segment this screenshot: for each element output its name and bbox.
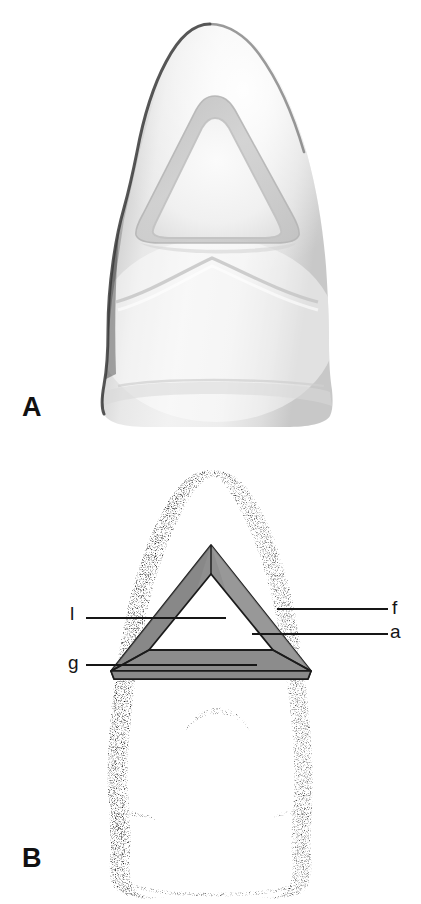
panel-a: A: [0, 0, 421, 452]
tooth-outline-render-b: [107, 468, 316, 901]
label-gingival-wall: g: [68, 653, 79, 672]
leader-line-f: [277, 608, 388, 610]
panel-b-illustration: [0, 452, 421, 904]
leader-line-g: [86, 664, 257, 666]
label-facial-wall: f: [392, 598, 397, 617]
figure-root: A: [0, 0, 421, 904]
cavity-gingival-bevel: [111, 671, 311, 679]
label-lingual-wall: l: [70, 604, 74, 623]
label-axial-floor: a: [390, 622, 401, 641]
panel-b-letter: B: [22, 845, 42, 872]
panel-a-letter: A: [22, 394, 42, 421]
panel-b: [0, 452, 421, 904]
leader-line-l: [86, 617, 226, 619]
leader-line-a: [252, 633, 388, 635]
panel-a-illustration: [0, 0, 421, 452]
tooth-crown-render-a: [86, 0, 360, 452]
